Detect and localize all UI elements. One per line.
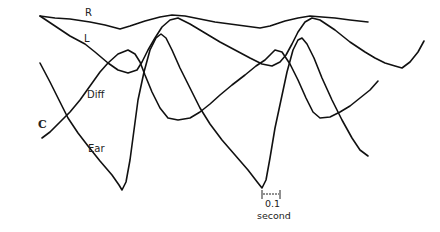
scale-bar-unit: second bbox=[257, 211, 291, 221]
label-ear: Ear bbox=[88, 144, 105, 154]
figure-canvas bbox=[0, 0, 440, 232]
label-diff: Diff bbox=[87, 90, 104, 100]
trace-ear bbox=[40, 34, 368, 190]
panel-label: C bbox=[38, 118, 47, 131]
label-l: L bbox=[84, 34, 90, 44]
scale-bar-value: 0.1 bbox=[265, 199, 280, 209]
label-r: R bbox=[85, 8, 92, 18]
